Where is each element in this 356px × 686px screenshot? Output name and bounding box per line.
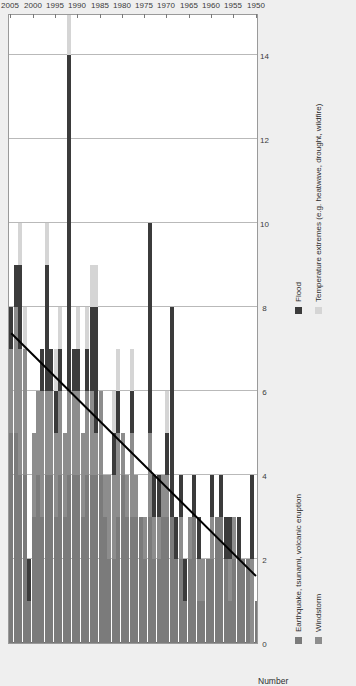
bar-row <box>152 14 156 643</box>
bar-row <box>67 14 71 643</box>
bar-segment-flood <box>14 265 18 307</box>
bar-segment-flood <box>130 391 134 433</box>
bar-segment-quake <box>241 559 245 643</box>
legend-label: Flood <box>294 282 303 302</box>
bar-row <box>165 14 169 643</box>
bar-segment-flood <box>174 517 178 559</box>
bar-segment-quake <box>219 517 223 643</box>
bar-segment-flood <box>58 349 62 391</box>
bar-row <box>107 14 111 643</box>
bar-segment-quake <box>206 559 210 643</box>
bar-segment-quake <box>76 475 80 643</box>
bar-segment-temp <box>76 307 80 349</box>
legend-swatch-icon-temp <box>315 307 322 314</box>
bar-segment-wind <box>121 433 125 475</box>
bar-segment-quake <box>192 517 196 643</box>
bar-segment-flood <box>90 307 94 391</box>
bar-row <box>14 14 18 643</box>
bar-row <box>54 14 58 643</box>
year-axis-tick-label: 2000 <box>24 1 42 10</box>
bar-segment-wind <box>143 517 147 559</box>
bar-segment-quake <box>197 601 201 643</box>
year-axis-tick-mark <box>55 14 56 18</box>
bar-row <box>224 14 228 643</box>
bar-row <box>161 14 165 643</box>
bar-segment-temp <box>45 223 49 265</box>
bar-segment-quake <box>45 475 49 643</box>
bar-row <box>49 14 53 643</box>
bar-segment-quake <box>201 601 205 643</box>
bar-row <box>232 14 236 643</box>
bar-segment-wind <box>197 559 201 601</box>
bar-segment-flood <box>85 349 89 391</box>
bar-row <box>99 14 103 643</box>
bar-row <box>58 14 62 643</box>
legend-label: Temperature extremes (e.g. heatwave, dro… <box>314 104 323 302</box>
legend-swatch-icon-quake <box>295 637 302 644</box>
legend-item-temp: Temperature extremes (e.g. heatwave, dro… <box>314 104 323 314</box>
year-axis-tick-label: 1985 <box>91 1 109 10</box>
bar-row <box>90 14 94 643</box>
bar-segment-quake <box>188 559 192 643</box>
value-axis-tick-label: 14 <box>260 52 269 61</box>
bar-segment-flood <box>148 223 152 433</box>
bar-segment-wind <box>250 559 254 643</box>
bar-segment-flood <box>76 349 80 391</box>
bar-segment-flood <box>67 55 71 391</box>
bar-segment-quake <box>228 601 232 643</box>
bar-segment-quake <box>40 517 44 643</box>
bar-segment-quake <box>72 475 76 643</box>
bar-segment-wind <box>116 433 120 517</box>
bar-segment-quake <box>58 475 62 643</box>
bar-segment-temp <box>94 265 98 307</box>
bar-row <box>210 14 214 643</box>
bar-row <box>206 14 210 643</box>
bar-segment-quake <box>121 475 125 643</box>
bar-row <box>197 14 201 643</box>
bar-segment-quake <box>224 559 228 643</box>
bar-segment-wind <box>165 475 169 517</box>
bar-segment-flood <box>54 391 58 433</box>
bar-row <box>40 14 44 643</box>
bar-segment-temp <box>54 349 58 391</box>
bar-segment-wind <box>94 433 98 475</box>
bar-segment-flood <box>210 475 214 517</box>
bar-segment-flood <box>94 307 98 433</box>
bar-segment-flood <box>9 307 13 349</box>
bar-segment-wind <box>49 391 53 475</box>
bar-row <box>36 14 40 643</box>
bar-segment-flood <box>49 349 53 391</box>
bar-segment-temp <box>18 223 22 265</box>
bar-segment-quake <box>246 559 250 643</box>
bar-segment-wind <box>81 433 85 517</box>
value-axis-tick-label: 8 <box>262 304 266 313</box>
bar-row <box>183 14 187 643</box>
bar-segment-temp <box>165 391 169 433</box>
value-axis-tick-label: 10 <box>260 220 269 229</box>
bar-row <box>188 14 192 643</box>
bar-segment-wind <box>125 475 129 517</box>
bar-segment-temp <box>116 349 120 391</box>
legend-item-quake: Earthquake, tsunami, volcanic eruption <box>294 494 303 644</box>
year-axis-tick-label: 1960 <box>202 1 220 10</box>
bar-row <box>237 14 241 643</box>
bar-row <box>174 14 178 643</box>
bar-segment-flood <box>45 265 49 391</box>
bar-segment-quake <box>99 475 103 643</box>
bar-segment-quake <box>215 517 219 643</box>
bar-segment-quake <box>143 559 147 643</box>
bar-row <box>219 14 223 643</box>
bar-segment-wind <box>9 349 13 433</box>
bar-segment-wind <box>228 559 232 601</box>
year-axis-tick-mark <box>166 14 167 18</box>
bar-segment-flood <box>18 265 22 349</box>
bar-row <box>250 14 254 643</box>
plot-area <box>8 14 258 644</box>
bar-segment-wind <box>148 433 152 517</box>
bar-segment-wind <box>18 349 22 475</box>
bar-segment-wind <box>54 433 58 517</box>
bar-segment-flood <box>179 475 183 517</box>
year-axis-tick-label: 2005 <box>1 1 19 10</box>
bar-segment-temp <box>130 349 134 391</box>
year-axis-tick-mark <box>33 14 34 18</box>
